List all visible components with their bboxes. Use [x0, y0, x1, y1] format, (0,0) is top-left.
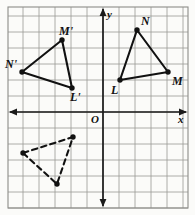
vertex-dot — [54, 181, 59, 186]
y-axis-arrow-up — [100, 8, 107, 16]
grid-lines — [8, 7, 188, 208]
vertex-dot — [70, 134, 75, 139]
x-axis-arrow-left — [9, 109, 17, 116]
y-axis-label: y — [107, 9, 112, 20]
vertex-label-M: M — [172, 75, 183, 87]
vertex-dot — [134, 27, 139, 32]
vertex-dot — [20, 150, 25, 155]
vertex-dot — [165, 69, 170, 74]
x-axis-label: x — [178, 114, 184, 125]
graph-canvas — [0, 0, 195, 215]
vertex-dot — [59, 37, 64, 42]
y-axis-arrow-down — [100, 199, 107, 207]
vertex-label-N: N — [141, 15, 150, 27]
coordinate-plane-figure: L M N N' M' L' O x y — [0, 0, 195, 215]
origin-label: O — [91, 114, 99, 125]
vertex-dot — [19, 69, 24, 74]
vertex-dot — [117, 77, 122, 82]
plot-border — [8, 7, 188, 208]
vertex-label-N-prime: N' — [5, 58, 17, 70]
vertex-label-M-prime: M' — [59, 25, 73, 37]
vertex-label-L: L — [111, 84, 118, 96]
vertex-label-L-prime: L' — [70, 91, 81, 103]
triangle-LMN — [120, 30, 168, 80]
